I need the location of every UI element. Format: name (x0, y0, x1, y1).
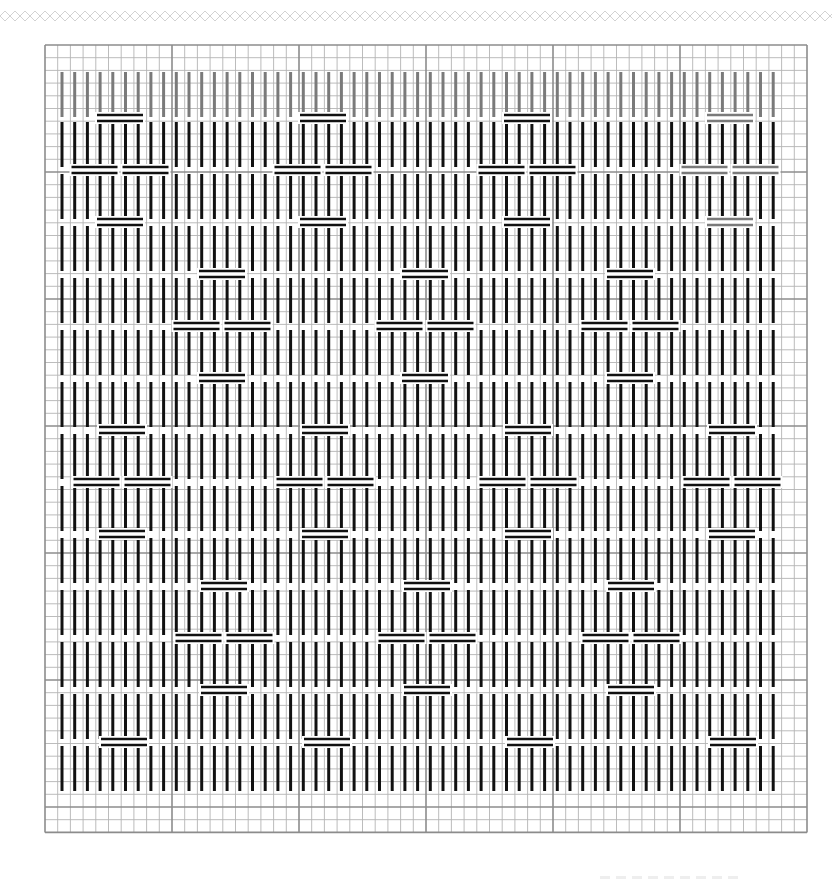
footer-dashes (600, 874, 740, 881)
vertical-stitches (62, 72, 773, 791)
stitch-chart (0, 0, 832, 881)
